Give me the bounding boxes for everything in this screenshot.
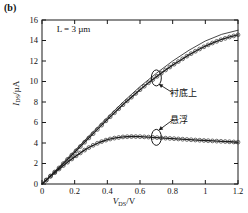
annotation-callouts bbox=[151, 70, 172, 145]
y-tick-label: 16 bbox=[20, 15, 38, 25]
y-tick-label: 0 bbox=[20, 179, 38, 189]
x-axis-sub: DS bbox=[118, 201, 126, 207]
x-tick-label: 0.2 bbox=[66, 186, 84, 196]
y-tick-label: 14 bbox=[20, 35, 38, 45]
curve-measured bbox=[42, 137, 238, 184]
y-tick-label: 4 bbox=[20, 138, 38, 148]
x-tick-label: 1.2 bbox=[229, 186, 247, 196]
data-curves bbox=[42, 30, 240, 184]
x-tick-label: 0.4 bbox=[98, 186, 116, 196]
x-axis-unit: /V bbox=[126, 196, 135, 206]
annotation-substrate: 衬底上 bbox=[170, 86, 197, 99]
y-tick-label: 6 bbox=[20, 117, 38, 127]
annotation-suspended: 悬浮 bbox=[170, 113, 188, 126]
y-tick-label: 8 bbox=[20, 97, 38, 107]
channel-length-label: L = 3 µm bbox=[57, 24, 91, 34]
x-tick-label: 0.6 bbox=[131, 186, 149, 196]
y-tick-label: 10 bbox=[20, 76, 38, 86]
x-tick-label: 0.8 bbox=[164, 186, 182, 196]
y-axis-label: IDS/µA bbox=[11, 63, 22, 123]
y-tick-label: 2 bbox=[20, 158, 38, 168]
x-axis-label: VDS/V bbox=[0, 196, 248, 207]
curve-measured bbox=[42, 35, 238, 184]
y-tick-label: 12 bbox=[20, 56, 38, 66]
callout-arrowhead bbox=[159, 126, 163, 130]
x-tick-label: 1 bbox=[196, 186, 214, 196]
